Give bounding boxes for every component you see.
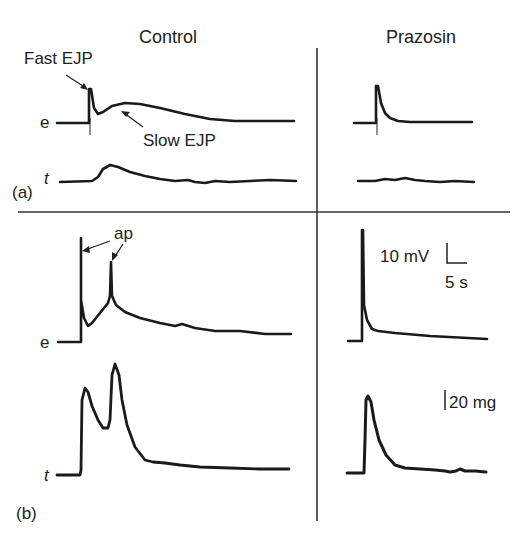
trace-a-prazosin-t <box>358 178 474 182</box>
trace-b-control-e <box>58 238 291 342</box>
trace-label-t-b: t <box>44 466 50 485</box>
scale-label-time: 5 s <box>445 273 468 292</box>
ap-arrowhead-1 <box>82 246 90 253</box>
fast-ejp-arrowhead <box>80 83 88 90</box>
figure-canvas: Control Prazosin Fast EJP e Slow EJP t (… <box>0 0 526 541</box>
trace-a-control-t <box>60 165 296 183</box>
scale-label-tension: 20 mg <box>449 393 496 412</box>
panel-label-b: (b) <box>16 504 37 523</box>
annotation-slow-ejp: Slow EJP <box>143 131 216 150</box>
column-header-prazosin: Prazosin <box>386 27 456 47</box>
trace-label-e-a: e <box>40 113 49 132</box>
trace-a-prazosin-e <box>354 86 472 123</box>
annotation-ap: ap <box>114 224 133 243</box>
trace-label-e-b: e <box>40 333 49 352</box>
trace-a-control-e <box>57 89 294 123</box>
trace-b-control-t <box>57 364 289 475</box>
column-header-control: Control <box>139 27 197 47</box>
scale-label-voltage: 10 mV <box>380 247 430 266</box>
annotation-fast-ejp: Fast EJP <box>24 49 93 68</box>
panel-label-a: (a) <box>12 183 33 202</box>
trace-label-t-a: t <box>44 169 50 188</box>
scale-bar-voltage-time <box>447 243 467 263</box>
